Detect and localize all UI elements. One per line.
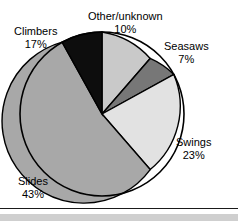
pie-label-climbers-name: Climbers [14, 25, 57, 38]
page-divider-rule [0, 208, 238, 209]
pie-label-seasaws-value: 7% [164, 53, 209, 66]
pie-label-slides-value: 43% [18, 188, 48, 201]
pie-label-slides-name: Slides [18, 175, 48, 188]
pie-label-swings: Swings 23% [176, 136, 211, 161]
pie-label-slides: Slides 43% [18, 175, 48, 200]
pie-label-seasaws: Seasaws 7% [164, 40, 209, 65]
pie-label-seasaws-name: Seasaws [164, 40, 209, 53]
pie-label-other-unknown-name: Other/unknown [88, 10, 163, 23]
pie-label-other-unknown: Other/unknown 10% [88, 10, 163, 35]
pie-label-swings-name: Swings [176, 136, 211, 149]
page-bottom-band [0, 214, 238, 221]
pie-chart-figure: Other/unknown 10% Seasaws 7% Swings 23% … [0, 0, 238, 221]
pie-label-climbers: Climbers 17% [14, 25, 57, 50]
pie-label-other-unknown-value: 10% [88, 23, 163, 36]
pie-label-swings-value: 23% [176, 149, 211, 162]
pie-label-climbers-value: 17% [14, 38, 57, 51]
